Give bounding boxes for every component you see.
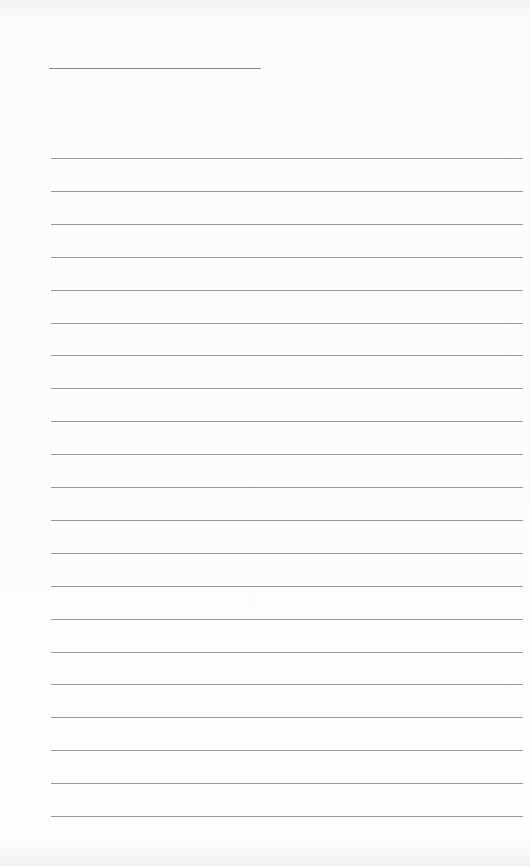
ruled-line [51,717,523,718]
ruled-line [51,158,523,159]
ruled-line [51,750,523,751]
ruled-line [51,454,523,455]
ruled-line [51,816,523,817]
header-name-line [49,68,261,69]
ruled-line [51,586,523,587]
ruled-line [51,520,523,521]
ruled-line [51,652,523,653]
ruled-line [51,355,523,356]
ruled-line [51,553,523,554]
ruled-line [51,224,523,225]
lined-paper-page [0,0,530,866]
ruled-line [51,619,523,620]
ruled-line [51,290,523,291]
ruled-line [51,388,523,389]
ruled-line [51,191,523,192]
ruled-line [51,783,523,784]
ruled-line [51,487,523,488]
ruled-line [51,257,523,258]
ruled-line [51,684,523,685]
ruled-line [51,421,523,422]
ruled-line [51,323,523,324]
